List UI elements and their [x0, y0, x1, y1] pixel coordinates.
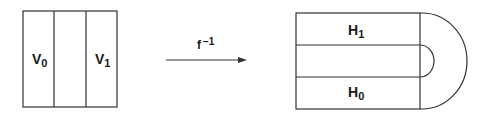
label-v1: V1 [95, 51, 110, 69]
label-h1: H1 [348, 22, 364, 40]
right-figure: H1 H0 [296, 13, 467, 109]
inner-arc [420, 45, 434, 77]
label-v0: V0 [32, 51, 47, 69]
arrow-head-icon [238, 57, 247, 63]
label-h0: H0 [348, 84, 364, 102]
left-square: V0 V1 [23, 11, 117, 107]
outer-arc [420, 13, 467, 109]
map-arrow: f−1 [166, 36, 247, 63]
map-label: f−1 [197, 36, 215, 52]
diagram: V0 V1 f−1 H1 H0 [0, 0, 491, 117]
